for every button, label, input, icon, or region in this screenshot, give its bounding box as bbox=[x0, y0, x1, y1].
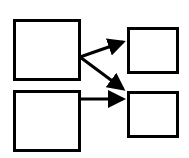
diagram-canvas bbox=[0, 0, 189, 158]
arrow-lefttop-to-righttop bbox=[80, 42, 123, 57]
box-left-top bbox=[15, 21, 80, 80]
box-right-top bbox=[129, 29, 178, 73]
box-left-bottom bbox=[15, 92, 80, 151]
box-right-bottom bbox=[129, 93, 178, 137]
arrow-lefttop-to-rightbottom bbox=[80, 57, 123, 89]
